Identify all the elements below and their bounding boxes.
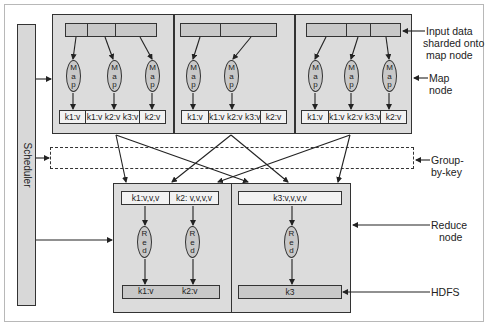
input-data-label: Input data sharded onto map node	[426, 25, 484, 61]
reduce-node-label-line: node	[439, 231, 467, 243]
group-by-key-label-line: by-key	[431, 166, 464, 178]
input-data-label-line: Input data	[426, 25, 484, 37]
reduce-node-label-line: Reduce	[431, 219, 467, 231]
arrows-layer	[0, 0, 491, 328]
group-by-key-label-line: Group-	[431, 154, 464, 166]
map-node-label-line: Map	[429, 72, 452, 84]
input-data-label-line: sharded onto	[423, 37, 484, 49]
map-node-label: Map node	[429, 72, 452, 96]
hdfs-label: HDFS	[431, 286, 460, 298]
reduce-node-label: Reduce node	[431, 219, 467, 243]
input-data-label-line: map node	[426, 49, 484, 61]
map-node-label-line: node	[429, 84, 452, 96]
group-by-key-label: Group- by-key	[431, 154, 464, 178]
